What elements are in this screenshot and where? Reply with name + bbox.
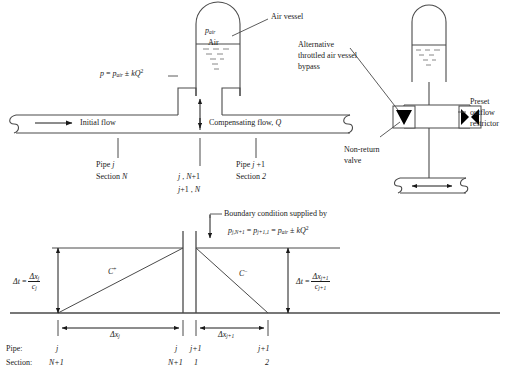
alternative-bypass-line3: bypass bbox=[298, 62, 320, 71]
station-left-line2: Section N bbox=[96, 172, 127, 181]
preset-restrictor-line1: Preset bbox=[470, 97, 490, 106]
pipe-break-right bbox=[344, 115, 353, 133]
station-middle-line2: j+1 , N bbox=[178, 185, 200, 194]
c-plus-label: C+ bbox=[108, 266, 117, 276]
mark-1-pipe: j bbox=[56, 344, 58, 353]
pipe-break-left bbox=[10, 115, 19, 133]
mark-2-section: N+1 bbox=[168, 358, 183, 367]
boundary-condition-note: Boundary condition supplied by bbox=[224, 209, 327, 218]
boundary-condition-leader bbox=[210, 214, 222, 218]
initial-flow-label: Initial flow bbox=[80, 118, 116, 127]
air-vessel-water-hatch bbox=[203, 49, 229, 69]
air-vessel-group bbox=[178, 2, 240, 115]
station-right-line2: Section 2 bbox=[236, 172, 266, 181]
air-vessel-neck-right bbox=[222, 88, 240, 115]
station-middle-line1: j , N+1 bbox=[178, 172, 200, 181]
station-left-line1: Pipe j bbox=[96, 160, 114, 169]
station-right-line1: Pipe j +1 bbox=[236, 160, 265, 169]
non-return-valve-line1: Non-return bbox=[344, 145, 380, 154]
c-plus-characteristic bbox=[58, 248, 183, 313]
bypass-vessel-group bbox=[404, 5, 470, 178]
mark-2-pipe: j bbox=[175, 344, 177, 353]
dt-left-equation: Δt = Δxjcj bbox=[13, 272, 40, 292]
c-minus-characteristic bbox=[196, 248, 268, 313]
mark-1-section: N+1 bbox=[49, 358, 64, 367]
mark-3-section: 1 bbox=[194, 358, 198, 367]
alternative-bypass-line1: Alternative bbox=[298, 40, 334, 49]
compensating-flow-label: Compensating flow, Q bbox=[209, 118, 281, 127]
axis-title-section: Section: bbox=[6, 358, 32, 367]
axis-title-pipe: Pipe: bbox=[6, 344, 22, 353]
alternative-bypass-leader bbox=[350, 48, 398, 110]
air-vessel-leader-line bbox=[232, 19, 268, 36]
c-minus-label: C− bbox=[239, 268, 248, 278]
bypass-bottom-pipe bbox=[394, 178, 467, 193]
air-pressure-label: pair bbox=[205, 26, 215, 35]
air-vessel-neck-left bbox=[178, 88, 196, 115]
dx-right-label: Δxj+1 bbox=[218, 330, 234, 339]
bottom-pipe-break-right bbox=[460, 178, 467, 193]
bypass-vessel-outline bbox=[412, 5, 446, 82]
dimension-row bbox=[58, 320, 268, 336]
air-vessel-title: Air vessel bbox=[271, 12, 303, 21]
boundary-condition-equation: pj,N+1 = pj+1,1 = pair ± kQ2 bbox=[228, 225, 309, 235]
figure-vector-layer bbox=[0, 0, 514, 373]
bottom-pipe-break-left bbox=[394, 178, 401, 193]
bypass-vessel-water-hatch bbox=[416, 50, 440, 65]
mark-4-pipe: j+1 bbox=[258, 344, 270, 353]
figure-canvas: pair Air Air vessel p = pair ± kQ2 Initi… bbox=[0, 0, 514, 373]
non-return-valve-line2: valve bbox=[344, 156, 361, 165]
main-pipe-group bbox=[10, 115, 353, 133]
mark-3-pipe: j+1 bbox=[190, 344, 202, 353]
non-return-valve-leader bbox=[380, 122, 400, 137]
dx-left-label: Δxj bbox=[110, 330, 120, 339]
preset-restrictor-line2: outflow bbox=[470, 108, 495, 117]
dt-right-equation: Δt = Δxj+1cj+1 bbox=[296, 272, 330, 292]
air-gas-label: Air bbox=[208, 38, 219, 47]
mark-4-section: 2 bbox=[265, 358, 269, 367]
preset-restrictor-line3: restrictor bbox=[470, 119, 499, 128]
pressure-equation: p = pair ± kQ2 bbox=[100, 68, 143, 78]
alternative-bypass-line2: throttled air vessel bbox=[298, 51, 357, 60]
